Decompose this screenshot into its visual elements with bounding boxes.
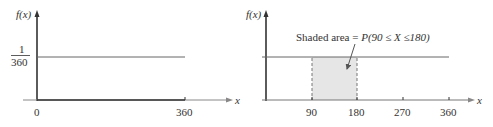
annotation-text: Shaded area = P(90 ≤ X ≤180) [296,31,430,44]
right-ylabel: f(x) [246,8,262,21]
left-xlabel: x [234,94,240,106]
left-y-axis-arrow-icon [35,10,40,17]
figure: f(x) x 1 360 0 360 f(x) x Shaded area = … [0,0,493,127]
left-tick-label-0: 0 [34,106,40,118]
left-chart: f(x) x 1 360 0 360 [11,8,240,118]
left-ylabel: f(x) [16,8,32,21]
right-y-axis-arrow-icon [264,10,269,17]
right-tick-label-360: 360 [440,106,457,118]
left-tick-label-360: 360 [176,106,193,118]
right-tick-label-270: 270 [394,106,411,118]
right-tick-label-90: 90 [306,106,318,118]
right-xlabel: x [476,94,482,106]
shaded-region [312,57,357,100]
right-chart: f(x) x Shaded area = P(90 ≤ X ≤180) 90 1… [246,8,482,118]
right-tick-label-180: 180 [348,106,365,118]
left-y-frac-den: 360 [11,56,28,68]
left-x-axis-arrow-icon [226,98,233,103]
right-x-axis-arrow-icon [468,98,475,103]
left-y-frac-num: 1 [19,43,25,55]
